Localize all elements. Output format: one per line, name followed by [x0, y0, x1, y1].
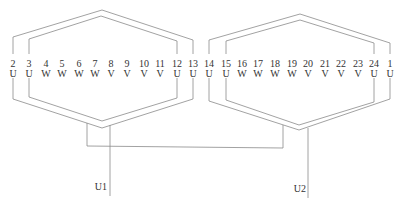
pin-phase: U	[25, 68, 33, 79]
left-pin-labels: 2 U 3 U 4 W 5 W 6 W 7 W 8 V 9 V 10 V 11 …	[9, 58, 198, 79]
pin-phase: V	[123, 68, 131, 79]
pin-phase: V	[156, 68, 164, 79]
pin-phase: U	[189, 68, 197, 79]
winding-connection-diagram: 2 U 3 U 4 W 5 W 6 W 7 W 8 V 9 V 10 V 11 …	[0, 0, 401, 207]
pin-phase: V	[304, 68, 312, 79]
lead-label-u2: U2	[294, 183, 306, 194]
left-inner-loop-bottom	[29, 78, 177, 121]
pin-phase: W	[57, 68, 67, 79]
pin-phase: V	[354, 68, 362, 79]
pin-phase: U	[370, 68, 378, 79]
pin-phase: U	[205, 68, 213, 79]
right-connector: 14 U 15 U 16 W 17 W 18 W 19 W 20 V 21 V …	[204, 14, 394, 130]
pin-phase: V	[321, 68, 329, 79]
pin-phase: W	[90, 68, 100, 79]
pin-phase: U	[386, 68, 394, 79]
pin-phase: U	[173, 68, 181, 79]
pin-phase: V	[107, 68, 115, 79]
right-inner-loop	[226, 20, 374, 54]
pin-phase: W	[237, 68, 247, 79]
pin-phase: W	[41, 68, 51, 79]
lead-label-u1: U1	[95, 181, 107, 192]
right-inner-loop-bottom	[226, 78, 374, 125]
pin-phase: V	[337, 68, 345, 79]
pin-phase: W	[270, 68, 280, 79]
right-pin-labels: 14 U 15 U 16 W 17 W 18 W 19 W 20 V 21 V …	[204, 58, 394, 79]
pin-phase: U	[9, 68, 17, 79]
left-connector: 2 U 3 U 4 W 5 W 6 W 7 W 8 V 9 V 10 V 11 …	[9, 10, 198, 128]
pin-phase: V	[140, 68, 148, 79]
cross-link-wire	[87, 123, 283, 148]
pin-phase: W	[287, 68, 297, 79]
pin-phase: W	[74, 68, 84, 79]
pin-phase: W	[253, 68, 263, 79]
left-inner-loop	[29, 16, 177, 54]
pin-phase: U	[222, 68, 230, 79]
right-outer-loop-bottom	[209, 78, 390, 130]
